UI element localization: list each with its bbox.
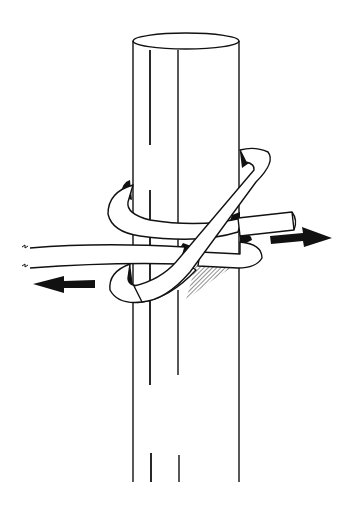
pole-top [133,33,239,49]
knot-illustration [0,0,347,511]
rope-end-marks [22,245,28,267]
rope [30,148,296,302]
arrow-left-icon [33,276,95,293]
